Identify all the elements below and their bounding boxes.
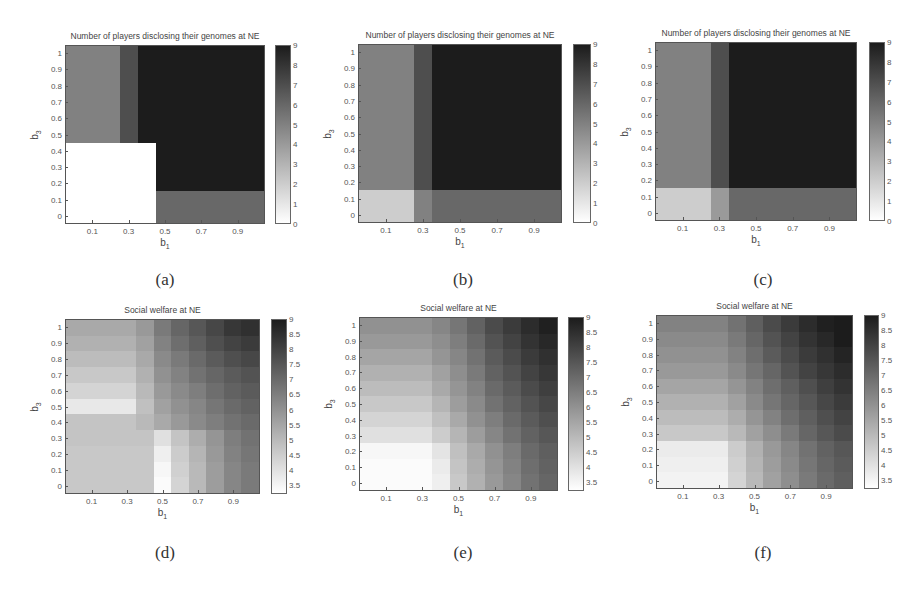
heatmap-cell [539, 412, 557, 428]
heatmap-cell [543, 174, 561, 190]
chart-title: Social welfare at NE [124, 305, 201, 315]
colorbar-tick-label: 5.5 [584, 418, 597, 427]
heatmap-cell [189, 414, 207, 430]
colorbar-tick-label: 7 [591, 79, 597, 88]
heatmap-cell [711, 156, 729, 172]
heatmap-cell [414, 349, 432, 365]
y-tick-mark [358, 166, 361, 167]
heatmap-cell [396, 109, 414, 125]
heatmap-cell [729, 156, 747, 172]
heatmap-cell [120, 94, 138, 110]
y-tick-label: 0.3 [345, 431, 359, 440]
heatmap-cell [102, 207, 120, 223]
colorbar-tick-label: 4 [885, 137, 891, 146]
y-tick-label: 1 [648, 46, 655, 55]
heatmap-cell [84, 351, 102, 367]
heatmap-cell [467, 412, 485, 428]
y-tick-mark [65, 151, 68, 152]
y-axis-label-text: b [29, 406, 40, 412]
heatmap-cell [763, 472, 781, 488]
heatmap-cell [657, 347, 675, 363]
y-tick-mark [65, 200, 68, 201]
heatmap-cell [710, 316, 728, 332]
heatmap-cell [120, 126, 138, 142]
x-tick-mark [683, 217, 684, 220]
y-tick-label: 0.8 [641, 78, 655, 87]
heatmap-cell [746, 347, 764, 363]
heatmap-cell [174, 126, 192, 142]
heatmap-cell [84, 446, 102, 462]
heatmap-cell [539, 459, 557, 475]
x-tick-label: 0.7 [787, 224, 798, 233]
heatmap-cell [820, 107, 838, 123]
heatmap-cell [728, 347, 746, 363]
heatmap-cell [359, 174, 377, 190]
x-tick-label: 0.5 [157, 497, 168, 506]
heatmap-cell [817, 363, 835, 379]
heatmap-cell [246, 159, 264, 175]
heatmap-cell [378, 318, 396, 334]
heatmap-cell [485, 427, 503, 443]
x-tick-mark [233, 490, 234, 493]
heatmap-cell [711, 43, 729, 59]
heatmap-cell [763, 457, 781, 473]
heatmap-cell [488, 109, 506, 125]
heatmap-cell [377, 174, 395, 190]
heatmap-cell [174, 46, 192, 62]
x-tick-label: 0.9 [232, 227, 243, 236]
heatmap-cell [763, 441, 781, 457]
heatmap-cell [656, 43, 674, 59]
y-tick-mark [655, 99, 658, 100]
heatmap-cell [747, 59, 765, 75]
heatmap-cell [674, 43, 692, 59]
y-tick-mark [359, 483, 362, 484]
heatmap-cell [817, 332, 835, 348]
heatmap-cell [657, 394, 675, 410]
heatmap-cell [469, 109, 487, 125]
heatmap-cell [781, 316, 799, 332]
heatmap-cell [506, 158, 524, 174]
heatmap-cell [711, 107, 729, 123]
colorbar-tick-label: 4.5 [584, 448, 597, 457]
heatmap-cell [728, 410, 746, 426]
heatmap-cell [467, 381, 485, 397]
y-tick-mark [656, 418, 659, 419]
heatmap-cell [102, 159, 120, 175]
heatmap-cell [674, 123, 692, 139]
heatmap-cell [674, 172, 692, 188]
heatmap-cell [799, 472, 817, 488]
heatmap-cell [224, 351, 242, 367]
heatmap-cell [171, 462, 189, 478]
heatmap-cell [834, 332, 852, 348]
heatmap-plot [655, 42, 857, 221]
heatmap-cell [657, 441, 675, 457]
y-tick-label: 0.8 [344, 80, 358, 89]
heatmap-cell [450, 334, 468, 350]
heatmap-cell [450, 396, 468, 412]
heatmap-cell [450, 349, 468, 365]
x-tick-mark [534, 219, 535, 222]
y-tick-mark [65, 343, 68, 344]
heatmap-cell [414, 459, 432, 475]
heatmap-cell [783, 188, 801, 204]
heatmap-cell [801, 172, 819, 188]
heatmap-cell [102, 126, 120, 142]
x-tick-mark [719, 485, 720, 488]
heatmap-cell [246, 143, 264, 159]
heatmap-cell [781, 457, 799, 473]
heatmap-cell [192, 159, 210, 175]
heatmap-cell [467, 396, 485, 412]
heatmap-cell [657, 379, 675, 395]
heatmap-cell [711, 91, 729, 107]
heatmap-cell [136, 383, 154, 399]
heatmap-cell [396, 349, 414, 365]
heatmap-cell [801, 140, 819, 156]
heatmap-cell [820, 156, 838, 172]
heatmap-cell [710, 425, 728, 441]
heatmap-cell [84, 367, 102, 383]
heatmap-cell [506, 109, 524, 125]
colorbar-tick-label: 7.5 [879, 356, 892, 365]
x-axis-label-subscript: 1 [757, 240, 761, 247]
heatmap-cell [224, 430, 242, 446]
heatmap-cell [360, 443, 378, 459]
